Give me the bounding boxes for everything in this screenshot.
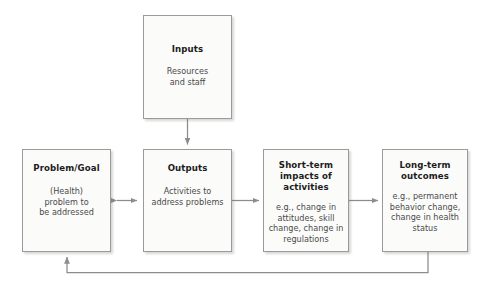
node-long-term-outcomes-title: Long-term outcomes <box>399 160 450 182</box>
node-problem-goal-title: Problem/Goal <box>33 163 99 174</box>
node-short-term-impacts-body: e.g., change in attitudes, skill change,… <box>269 202 344 244</box>
node-inputs[interactable]: Inputs Resources and staff <box>143 15 232 119</box>
node-outputs[interactable]: Outputs Activities to address problems <box>143 149 232 252</box>
node-short-term-impacts[interactable]: Short-term impacts of activities e.g., c… <box>263 149 349 252</box>
node-long-term-outcomes-body: e.g., permanent behavior change, change … <box>390 191 460 233</box>
node-short-term-impacts-title: Short-term impacts of activities <box>279 160 333 193</box>
node-long-term-outcomes[interactable]: Long-term outcomes e.g., permanent behav… <box>382 149 468 252</box>
logic-model-diagram: Inputs Resources and staff Problem/Goal … <box>0 0 495 289</box>
node-outputs-body: Activities to address problems <box>151 186 223 207</box>
node-inputs-title: Inputs <box>172 44 203 55</box>
node-inputs-body: Resources and staff <box>167 66 208 87</box>
node-problem-goal[interactable]: Problem/Goal (Health) problem to be addr… <box>22 149 111 252</box>
node-problem-goal-body: (Health) problem to be addressed <box>39 186 94 218</box>
connector-feedback-loop <box>67 252 428 273</box>
node-outputs-title: Outputs <box>168 163 208 174</box>
